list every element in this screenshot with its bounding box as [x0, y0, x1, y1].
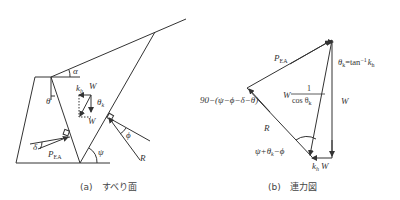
pea-arrow — [38, 137, 68, 149]
label-phi: ϕ — [126, 130, 131, 140]
caption-b: (b) 連力図 — [268, 181, 317, 192]
label-psi: ψ — [98, 147, 104, 157]
label-w-top: W — [89, 81, 98, 91]
label-r-b: R — [263, 123, 270, 133]
frac-numerator: 1 — [307, 84, 311, 93]
backfill-surface — [51, 19, 186, 77]
label-alpha: α — [73, 66, 78, 76]
label-delta: δ — [33, 142, 38, 152]
label-angle-top: 90−(ψ−ϕ−δ−θ) — [200, 95, 258, 105]
panel-b-labels: PEA θk=tan−1kh W 1 cos θk W 90−(ψ−ϕ−δ−θ)… — [200, 53, 375, 192]
caption-a: (a) すべり面 — [80, 182, 137, 192]
label-theta-k-equation: θk=tan−1kh — [338, 57, 375, 68]
label-pea-b: PEA — [273, 53, 288, 64]
label-w-bottom: W — [88, 116, 97, 126]
label-kh-w: khW — [312, 161, 330, 172]
label-pea: PEA — [47, 149, 62, 160]
figure-canvas: α θ kh W θk W δ PEA ψ ϕ R (a) すべり面 PEA θ… — [0, 0, 400, 200]
label-w-right: W — [341, 96, 350, 106]
label-r: R — [139, 153, 146, 163]
label-kh: kh — [76, 83, 83, 94]
label-theta: θ — [46, 96, 51, 106]
label-theta-k: θk — [97, 97, 104, 108]
psi-arc — [89, 148, 97, 163]
label-angle-bottom: ψ+θk−ϕ — [255, 146, 285, 157]
normal-marker-wall — [63, 129, 69, 135]
resultant-w-arrow — [80, 95, 91, 116]
r-arrow — [109, 118, 140, 160]
frac-denominator: cos θk — [292, 96, 312, 106]
label-w-frac: W — [283, 90, 292, 100]
alpha-arc — [69, 70, 70, 77]
panel-a-slip-surface — [16, 19, 186, 163]
